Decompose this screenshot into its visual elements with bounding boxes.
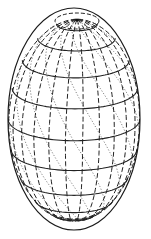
pole-point	[75, 18, 78, 21]
meridian-line	[34, 19, 76, 220]
latitude-line	[22, 60, 129, 78]
meridian-line	[22, 19, 76, 219]
latitude-line	[21, 178, 128, 196]
meridian-line	[74, 20, 83, 222]
ellipsoid-diagram	[0, 0, 151, 239]
meridian-line	[65, 20, 76, 222]
meridian-lines	[9, 19, 140, 221]
latitude-line	[12, 88, 138, 109]
